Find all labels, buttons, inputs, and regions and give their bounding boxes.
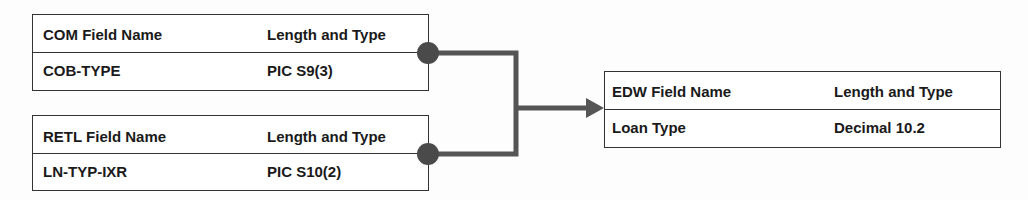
com-connector-dot-icon [417, 42, 439, 64]
retl-connector-dot-icon [417, 143, 439, 165]
connector-dots [0, 0, 1028, 200]
